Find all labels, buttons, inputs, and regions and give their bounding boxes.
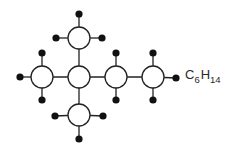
hydrogen-atom-icon (75, 135, 82, 142)
molecular-formula-label: C6H14 (185, 68, 222, 83)
carbon-atom-icon (105, 66, 127, 88)
hydrogen-atom-icon (98, 34, 105, 41)
hydrogen-atom-icon (172, 74, 179, 81)
formula-hydrogen-count: 14 (210, 74, 221, 85)
hydrogen-atom-icon (16, 73, 23, 80)
formula-carbon-count: 6 (194, 74, 199, 85)
hydrogen-atom-icon (38, 96, 45, 103)
carbon-atom-icon (68, 66, 90, 88)
carbon-atom-icon (68, 27, 90, 49)
hydrogen-atom-icon (38, 49, 45, 56)
hydrogen-atom-icon (149, 49, 156, 56)
hydrogen-atom-icon (52, 34, 59, 41)
formula-element-hydrogen: H (201, 67, 210, 82)
hydrogen-atom-icon (99, 112, 106, 119)
carbon-atom-icon (31, 66, 53, 88)
hydrogen-atom-icon (51, 112, 58, 119)
hydrogen-atom-icon (112, 49, 119, 56)
formula-element-carbon: C (185, 67, 194, 82)
carbon-atom-icon (142, 66, 164, 88)
hydrogen-atom-icon (75, 10, 82, 17)
hydrogen-atom-icon (149, 96, 156, 103)
carbon-atom-icon (68, 104, 90, 126)
hydrogen-atom-icon (112, 96, 119, 103)
